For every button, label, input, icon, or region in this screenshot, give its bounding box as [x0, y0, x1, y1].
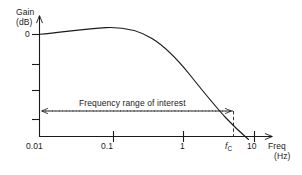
x-axis-title: Freq (Hz)	[268, 141, 290, 161]
x-axis-title-line2: (Hz)	[274, 151, 290, 161]
fc-label: fC	[225, 141, 232, 154]
x-tick-label-0: 0.01	[26, 141, 43, 151]
gain-response-curve	[40, 28, 249, 140]
x-tick-label-3: 10	[247, 141, 257, 151]
bode-plot-figure: Gain (dB) 0 0.01 0.1 1 10 fC Freq (Hz) F…	[0, 0, 302, 175]
x-tick-label-2: 1	[180, 141, 185, 151]
y-axis-title-line1: Gain	[16, 7, 34, 17]
x-tick-label-1: 0.1	[101, 141, 113, 151]
y-axis	[32, 16, 40, 137]
frequency-range-annotation: Frequency range of interest	[79, 98, 186, 108]
y-axis-title: Gain (dB)	[16, 7, 34, 27]
fc-label-subscript: C	[227, 145, 232, 152]
y-axis-title-line2: (dB)	[16, 17, 34, 27]
y-tick-label-0: 0	[25, 29, 30, 39]
x-axis-title-line1: Freq	[268, 141, 286, 151]
x-axis	[40, 131, 273, 142]
